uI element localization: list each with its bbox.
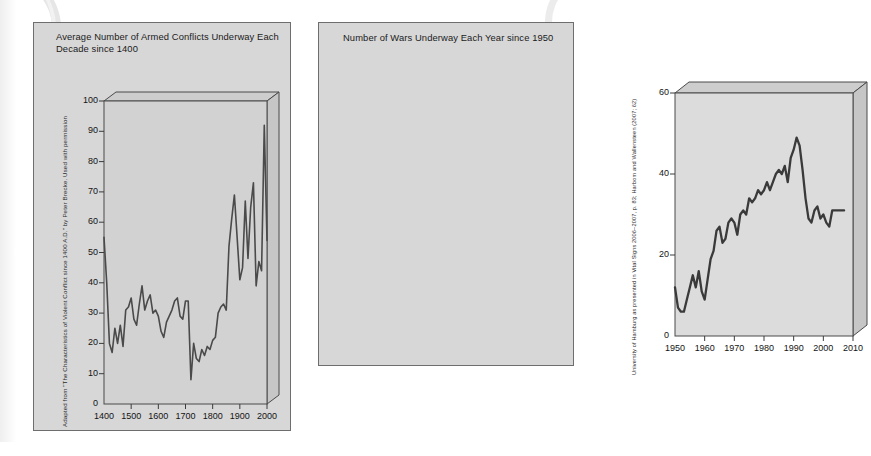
x-tick-label: 1960 <box>689 343 721 353</box>
left-chart-plot: 0102030405060708090100 14001500160017001… <box>78 87 281 430</box>
left-chart-title: Average Number of Armed Conflicts Underw… <box>56 31 281 54</box>
figure-armed-conflicts: Average Number of Armed Conflicts Underw… <box>33 22 291 431</box>
y-tick-label: 40 <box>78 277 98 287</box>
page-bottom-margin <box>0 442 596 456</box>
x-tick-label: 1990 <box>778 343 810 353</box>
x-tick-label: 2000 <box>807 343 839 353</box>
y-tick-label: 60 <box>653 87 669 97</box>
y-tick-label: 60 <box>78 216 98 226</box>
x-tick-label: 2010 <box>837 343 869 353</box>
y-tick-label: 90 <box>78 125 98 135</box>
y-tick-label: 70 <box>78 186 98 196</box>
x-tick-label: 2000 <box>251 411 283 421</box>
y-tick-label: 30 <box>78 307 98 317</box>
y-tick-label: 20 <box>78 337 98 347</box>
y-tick-label: 10 <box>78 368 98 378</box>
left-chart-svg <box>78 87 281 430</box>
x-tick-label: 1950 <box>659 343 691 353</box>
right-chart-title: Number of Wars Underway Each Year since … <box>343 32 558 44</box>
y-tick-label: 0 <box>653 330 669 340</box>
left-chart-attribution: Adapted from "The Characteristics of Vio… <box>61 116 68 427</box>
y-tick-label: 50 <box>78 247 98 257</box>
y-tick-label: 100 <box>78 95 98 105</box>
y-tick-label: 20 <box>653 249 669 259</box>
y-tick-label: 40 <box>653 168 669 178</box>
x-tick-label: 1970 <box>718 343 750 353</box>
figure-wars-per-year: Number of Wars Underway Each Year since … <box>318 22 574 366</box>
right-chart-svg <box>653 79 871 362</box>
y-tick-label: 0 <box>78 398 98 408</box>
right-chart-attribution: University of Hamburg as presented in Vi… <box>631 99 637 375</box>
x-tick-label: 1980 <box>748 343 780 353</box>
right-chart-plot: 0204060 1950196019701980199020002010 <box>653 79 871 362</box>
y-tick-label: 80 <box>78 156 98 166</box>
